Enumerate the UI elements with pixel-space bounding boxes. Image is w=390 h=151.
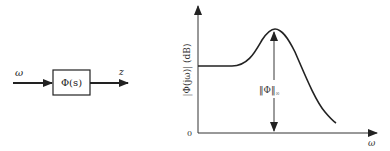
origin-label: 0 [187, 129, 192, 138]
magnitude-curve [198, 29, 336, 123]
y-axis-label: |Φ(jω)| (dB) [182, 44, 193, 97]
block-diagram: ω Φ(s) z [13, 67, 128, 95]
hinf-norm-label: ‖Φ‖∞ [259, 85, 280, 96]
figure: ω Φ(s) z 0 ω |Φ(jω)| (dB) ‖Φ‖∞ [0, 0, 390, 151]
magnitude-plot: 0 ω |Φ(jω)| (dB) ‖Φ‖∞ [182, 6, 377, 148]
output-label: z [118, 67, 124, 77]
input-label: ω [15, 67, 23, 78]
x-axis-label: ω [368, 138, 376, 148]
block-label: Φ(s) [61, 77, 82, 88]
